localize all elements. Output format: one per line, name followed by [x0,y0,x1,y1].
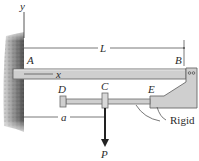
distance-a-dimension: a [24,111,104,123]
point-E-label: E [147,83,155,95]
beam-diagram: y L A B x D C E P a [0,0,199,161]
point-B-label: B [175,54,182,66]
fixed-wall-support [0,28,26,136]
point-A-label: A [26,54,34,66]
rigid-label: Rigid [170,114,195,126]
point-C-label: C [101,80,109,92]
collar-C [102,93,108,108]
end-cap-D [60,96,66,107]
beam-AB: x [13,68,186,80]
distance-a-label: a [61,111,67,123]
x-axis-label: x [55,68,61,80]
arrow-down-icon [101,139,109,147]
point-D-label: D [57,83,66,95]
load-P-arrow: P [100,108,109,160]
length-L-dimension: L [24,40,185,66]
y-axis-label: y [19,0,25,12]
load-P-label: P [100,148,108,160]
length-L-label: L [99,42,106,54]
